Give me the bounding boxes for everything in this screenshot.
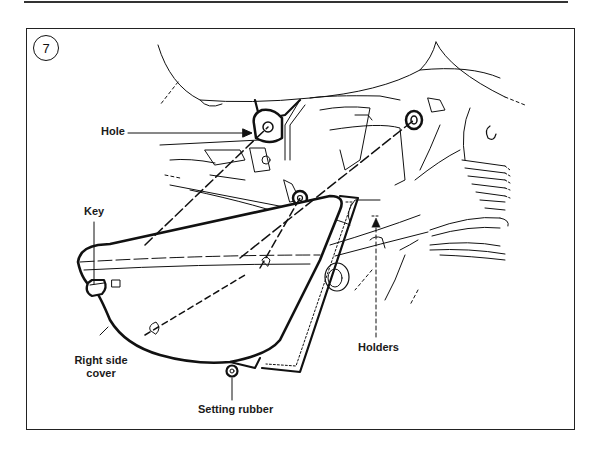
hole-bracket-left (250, 110, 282, 172)
label-holders: Holders (358, 341, 399, 354)
hole-grommet-right (406, 98, 445, 129)
label-key: Key (84, 205, 104, 218)
label-setting-rubber: Setting rubber (198, 403, 273, 416)
fuel-tank-outline (158, 42, 525, 106)
right-side-cover-outline (78, 196, 342, 368)
label-right-side-cover: Right side cover (56, 354, 146, 380)
holders-indicator (372, 216, 380, 337)
label-right-side-cover-line1: Right side (56, 354, 146, 367)
motorcycle-side-cover-diagram (0, 0, 594, 451)
setting-rubber (227, 366, 238, 377)
engine-cylinder (415, 108, 510, 260)
label-right-side-cover-line2: cover (56, 367, 146, 380)
label-hole: Hole (101, 125, 125, 138)
